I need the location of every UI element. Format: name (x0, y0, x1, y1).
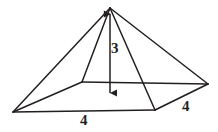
base-right-length-label: 4 (182, 99, 190, 114)
base-edge-back-left (13, 82, 82, 112)
pyramid-figure: 3 4 4 (0, 0, 218, 132)
lateral-edge-front (110, 8, 155, 110)
base-edge-back-right (82, 82, 208, 84)
lateral-edge-back (82, 8, 110, 82)
height-label: 3 (111, 41, 119, 56)
base-front-length-label: 4 (80, 113, 88, 128)
lateral-edge-right (110, 8, 208, 84)
lateral-edge-left (13, 8, 110, 112)
